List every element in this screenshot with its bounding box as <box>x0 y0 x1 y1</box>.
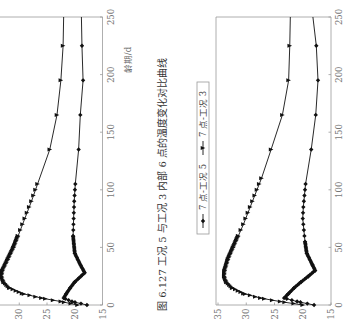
triangle-marker-icon <box>23 217 28 221</box>
diamond-marker-icon <box>314 44 318 48</box>
triangle-marker-icon <box>25 211 30 215</box>
triangle-marker-icon <box>33 295 38 299</box>
y-tick-label: 30 <box>14 309 24 319</box>
diamond-marker-icon <box>71 222 75 226</box>
legend: 7 点-工况 57 点-工况 3 <box>197 82 209 234</box>
diamond-marker-icon <box>72 211 76 215</box>
x-tick-label: 100 <box>106 182 116 198</box>
diamond-marker-icon <box>72 193 76 197</box>
x-tick-label: 0 <box>334 302 344 307</box>
triangle-marker-icon <box>253 295 258 299</box>
figure-caption: 图 6.127 工况 5 与工况 3 内部 6 点的温度变化对比曲线 <box>156 58 168 311</box>
triangle-marker-icon <box>27 293 32 297</box>
x-tick-label: 50 <box>334 242 344 253</box>
x-tick-label: 200 <box>334 66 344 82</box>
x-tick-label: 250 <box>334 9 344 25</box>
series-line <box>224 17 303 305</box>
triangle-marker-icon <box>262 297 267 301</box>
y-tick-label: 20 <box>298 309 308 319</box>
x-tick-label: 100 <box>334 182 344 198</box>
diamond-marker-icon <box>302 228 306 232</box>
series-line <box>64 17 87 305</box>
triangle-marker-icon <box>255 188 260 192</box>
diamond-marker-icon <box>85 303 89 307</box>
diamond-marker-icon <box>301 222 305 226</box>
triangle-marker-icon <box>51 298 56 302</box>
diamond-marker-icon <box>80 44 84 48</box>
diamond-marker-icon <box>301 216 305 220</box>
diamond-marker-icon <box>73 182 77 186</box>
diamond-marker-icon <box>303 188 307 192</box>
y-tick-label: 20 <box>70 309 80 319</box>
y-tick-label: 15 <box>98 309 108 319</box>
triangle-marker-icon <box>18 228 23 232</box>
diamond-marker-icon <box>71 216 75 220</box>
diamond-marker-icon <box>302 234 306 238</box>
x-tick-label: 200 <box>106 66 116 82</box>
triangle-marker-icon <box>278 300 283 304</box>
diamond-marker-icon <box>81 78 85 82</box>
triangle-marker-icon <box>252 194 257 198</box>
triangle-marker-icon <box>239 228 244 232</box>
legend-label: 7 点-工况 3 <box>198 91 208 137</box>
diamond-marker-icon <box>302 193 306 197</box>
x-tick-label: 150 <box>106 124 116 140</box>
triangle-marker-icon <box>29 199 34 203</box>
triangle-marker-icon <box>248 293 253 297</box>
diamond-marker-icon <box>312 303 316 307</box>
diamond-marker-icon <box>73 188 77 192</box>
chart-6-point: 05010015020025015202530 <box>0 9 116 319</box>
diamond-marker-icon <box>301 211 305 215</box>
diamond-marker-icon <box>314 113 318 117</box>
diamond-marker-icon <box>71 228 75 232</box>
triangle-marker-icon <box>35 182 40 186</box>
y-tick-label: 15 <box>326 309 336 319</box>
triangle-marker-icon <box>282 300 287 304</box>
diamond-marker-icon <box>290 298 294 302</box>
diamond-marker-icon <box>72 205 76 209</box>
y-tick-label: 25 <box>270 309 280 319</box>
diamond-marker-icon <box>316 78 320 82</box>
triangle-marker-icon <box>258 296 263 300</box>
triangle-marker-icon <box>246 211 251 215</box>
diamond-marker-icon <box>301 205 305 209</box>
diamond-marker-icon <box>78 113 82 117</box>
diamond-marker-icon <box>309 147 313 151</box>
y-tick-label: 25 <box>42 309 52 319</box>
x-tick-label: 150 <box>334 124 344 140</box>
triangle-marker-icon <box>43 297 48 301</box>
triangle-marker-icon <box>31 194 36 198</box>
triangle-marker-icon <box>62 300 67 304</box>
triangle-marker-icon <box>241 222 246 226</box>
triangle-marker-icon <box>20 222 25 226</box>
x-tick-label: 250 <box>106 9 116 25</box>
diamond-marker-icon <box>303 182 307 186</box>
diamond-marker-icon <box>76 147 80 151</box>
triangle-marker-icon <box>248 205 253 209</box>
triangle-marker-icon <box>33 188 38 192</box>
diamond-marker-icon <box>302 199 306 203</box>
series-line <box>1 17 77 305</box>
y-tick-label: 35 <box>213 309 223 319</box>
chart-7-point: 0501001502002501520253035 <box>213 9 344 319</box>
triangle-marker-icon <box>250 199 255 203</box>
diamond-marker-icon <box>295 299 299 303</box>
triangle-marker-icon <box>257 182 262 186</box>
legend-label: 7 点-工况 5 <box>198 164 208 210</box>
diamond-marker-icon <box>72 199 76 203</box>
rotated-paper-page: 05010015020025015202530 图 6.127 工况 5 与工况… <box>0 0 347 319</box>
x-tick-label: 0 <box>106 302 116 307</box>
triangle-marker-icon <box>243 217 248 221</box>
triangle-marker-icon <box>27 205 32 209</box>
x-axis-title: 龄期/d <box>123 46 133 73</box>
triangle-marker-icon <box>270 298 275 302</box>
y-tick-label: 30 <box>241 309 251 319</box>
x-tick-label: 50 <box>106 242 116 253</box>
